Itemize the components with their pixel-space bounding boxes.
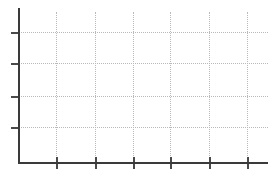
gridline-vertical bbox=[247, 12, 248, 168]
gridline-vertical bbox=[209, 12, 210, 168]
gridline-horizontal bbox=[11, 96, 268, 97]
gridline-horizontal bbox=[11, 127, 268, 128]
gridline-vertical bbox=[95, 12, 96, 168]
gridline-horizontal bbox=[11, 63, 268, 64]
chart-container bbox=[0, 0, 274, 176]
gridline-vertical bbox=[133, 12, 134, 168]
x-axis-line bbox=[18, 162, 268, 164]
gridline-vertical bbox=[170, 12, 171, 168]
gridline-vertical bbox=[56, 12, 57, 168]
gridline-horizontal bbox=[11, 32, 268, 33]
y-axis-line bbox=[18, 8, 20, 164]
